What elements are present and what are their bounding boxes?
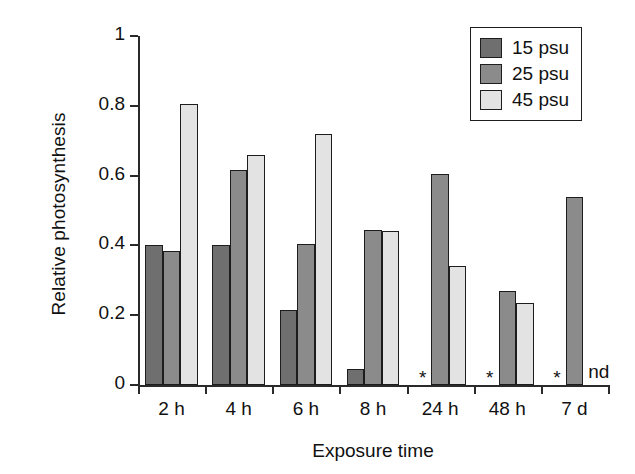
x-category-label: 8 h bbox=[339, 398, 406, 420]
x-axis-title: Exposure time bbox=[138, 440, 608, 462]
x-category-label: 24 h bbox=[407, 398, 474, 420]
y-tick-mark bbox=[130, 314, 138, 316]
no-data-label: nd bbox=[588, 361, 609, 383]
bar bbox=[230, 170, 248, 385]
y-tick-mark bbox=[130, 105, 138, 107]
bar bbox=[315, 134, 333, 385]
legend-item: 45 psu bbox=[480, 87, 569, 113]
y-tick-label: 0.8 bbox=[99, 93, 125, 115]
y-tick-mark bbox=[130, 175, 138, 177]
y-tick-label: 0.6 bbox=[99, 163, 125, 185]
legend-swatch bbox=[480, 64, 502, 84]
legend-label: 25 psu bbox=[512, 63, 569, 85]
legend-label: 15 psu bbox=[512, 37, 569, 59]
bar bbox=[145, 245, 163, 385]
bar bbox=[516, 303, 534, 385]
bar bbox=[297, 244, 315, 385]
bar bbox=[449, 266, 467, 385]
x-tick-mark bbox=[608, 385, 610, 394]
x-category-label: 6 h bbox=[272, 398, 339, 420]
bar-chart-figure: Relative photosynthesis Exposure time 00… bbox=[0, 0, 635, 474]
y-tick-label: 0.2 bbox=[99, 302, 125, 324]
legend: 15 psu25 psu45 psu bbox=[470, 27, 582, 121]
legend-label: 45 psu bbox=[512, 89, 569, 111]
y-tick-label: 0 bbox=[114, 372, 125, 394]
x-tick-mark bbox=[272, 385, 274, 394]
bar bbox=[382, 231, 400, 385]
x-category-label: 2 h bbox=[138, 398, 205, 420]
x-axis-line bbox=[138, 385, 608, 387]
bar bbox=[180, 104, 198, 385]
x-tick-mark bbox=[339, 385, 341, 394]
x-tick-mark bbox=[541, 385, 543, 394]
bar bbox=[163, 251, 181, 385]
x-category-label: 7 d bbox=[541, 398, 608, 420]
bar bbox=[212, 245, 230, 385]
legend-swatch bbox=[480, 90, 502, 110]
bar bbox=[347, 369, 365, 385]
y-tick-label: 1 bbox=[114, 23, 125, 45]
x-tick-mark bbox=[138, 385, 140, 394]
legend-swatch bbox=[480, 38, 502, 58]
bar bbox=[247, 155, 265, 385]
bar bbox=[566, 197, 584, 385]
legend-item: 25 psu bbox=[480, 61, 569, 87]
x-category-label: 4 h bbox=[205, 398, 272, 420]
bar bbox=[499, 291, 517, 385]
y-tick-label: 0.4 bbox=[99, 232, 125, 254]
y-tick-mark bbox=[130, 244, 138, 246]
y-tick-mark bbox=[130, 35, 138, 37]
x-tick-mark bbox=[407, 385, 409, 394]
bar bbox=[280, 310, 298, 385]
y-axis-title: Relative photosynthesis bbox=[48, 69, 70, 359]
x-tick-mark bbox=[205, 385, 207, 394]
bar bbox=[431, 174, 449, 385]
legend-item: 15 psu bbox=[480, 35, 569, 61]
y-tick-mark bbox=[130, 384, 138, 386]
bar bbox=[364, 230, 382, 385]
x-tick-mark bbox=[474, 385, 476, 394]
x-category-label: 48 h bbox=[474, 398, 541, 420]
